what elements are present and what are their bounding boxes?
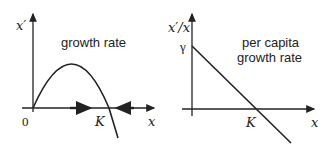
left-panel: x′ 0 K x growth rate [16, 14, 156, 138]
right-title-line2: growth rate [237, 50, 302, 65]
left-x-label: x [148, 114, 156, 129]
gamma-label: γ [179, 39, 186, 54]
left-y-label: x′ [16, 18, 26, 33]
right-k-label: K [245, 115, 257, 130]
origin-label: 0 [22, 114, 29, 129]
right-x-label: x [311, 115, 319, 130]
logistic-growth-diagram: x′ 0 K x growth rate x′/x γ K x per capi… [0, 0, 334, 149]
growth-rate-parabola [33, 64, 118, 138]
right-title-line1: per capita [242, 35, 300, 50]
right-panel: x′/x γ K x per capita growth rate [168, 14, 319, 143]
left-k-label: K [94, 114, 106, 129]
right-y-label: x′/x [168, 20, 191, 35]
left-title: growth rate [61, 35, 126, 50]
